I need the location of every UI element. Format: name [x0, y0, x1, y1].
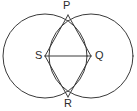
- vertex-label-p: P: [63, 0, 70, 11]
- segment-PQ: [68, 15, 91, 56]
- segment-QR: [68, 56, 91, 97]
- vertex-label-r: R: [64, 98, 72, 109]
- geometry-figure: P S Q R: [0, 0, 137, 111]
- segment-PS: [45, 15, 68, 56]
- geometry-canvas: [0, 0, 137, 111]
- segment-SR: [45, 56, 68, 97]
- vertex-label-q: Q: [95, 50, 104, 61]
- vertex-label-s: S: [35, 50, 42, 61]
